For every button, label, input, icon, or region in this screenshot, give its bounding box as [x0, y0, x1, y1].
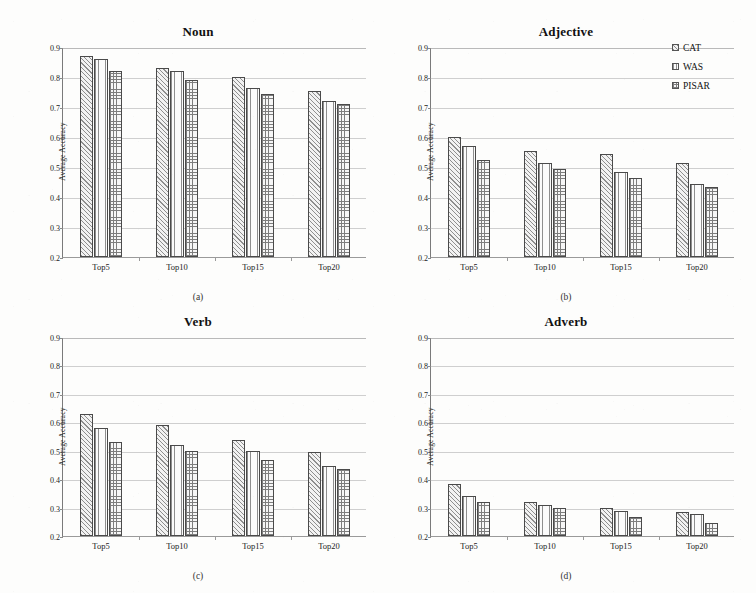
bar-cat-top20	[308, 452, 322, 536]
bar-was-top20	[322, 466, 336, 536]
bar-was-top20	[690, 514, 704, 536]
bar-was-top15	[614, 172, 628, 258]
x-axis-tick-mark	[507, 257, 508, 261]
bar-cat-top10	[524, 151, 538, 258]
bar-group: Top10	[139, 338, 215, 536]
bar-cat-top10	[156, 425, 170, 536]
chart-panel-noun: Noun0.90.80.70.60.50.40.30.2Top5Top10Top…	[18, 24, 378, 314]
bar-cat-top5	[448, 484, 462, 536]
y-axis-tick-label: 0.9	[418, 334, 428, 343]
bar-cat-top10	[524, 502, 538, 536]
y-axis-tick-label: 0.7	[418, 104, 428, 113]
y-axis-title: Average Accuracy	[426, 398, 435, 474]
bar-pisar-top15	[629, 517, 643, 536]
bar-group: Top15	[215, 48, 291, 257]
x-axis-tick-label: Top10	[507, 541, 583, 551]
y-axis-tick-label: 0.8	[418, 362, 428, 371]
bar-cat-top20	[676, 163, 690, 258]
y-axis-tick-label: 0.4	[50, 476, 60, 485]
y-axis-tick-label: 0.2	[50, 254, 60, 263]
bar-group: Top5	[431, 338, 507, 536]
y-axis-tick-label: 0.4	[418, 476, 428, 485]
legend-item-was: WAS	[672, 57, 710, 76]
panel-caption: (c)	[18, 571, 378, 581]
panel-caption: (a)	[18, 292, 378, 302]
bar-group: Top10	[507, 338, 583, 536]
bar-group: Top10	[507, 48, 583, 257]
bar-pisar-top5	[477, 502, 491, 536]
y-axis-tick-label: 0.9	[418, 44, 428, 53]
legend-item-cat: CAT	[672, 38, 710, 57]
bar-group: Top5	[431, 48, 507, 257]
bar-pisar-top15	[261, 94, 275, 258]
x-axis-tick-label: Top10	[139, 541, 215, 551]
x-axis-tick-label: Top20	[291, 262, 367, 272]
bar-cat-top10	[156, 68, 170, 257]
legend-swatch-icon	[672, 63, 679, 70]
x-axis-tick-mark	[291, 536, 292, 540]
bar-pisar-top20	[705, 187, 719, 258]
bar-cat-top5	[80, 414, 94, 536]
y-axis-tick-label: 0.4	[50, 194, 60, 203]
bar-was-top5	[94, 59, 108, 257]
y-axis-tick-label: 0.2	[50, 533, 60, 542]
y-axis-tick-label: 0.3	[50, 224, 60, 233]
x-axis-tick-mark	[507, 536, 508, 540]
y-axis-tick-label: 0.2	[418, 254, 428, 263]
bar-group: Top20	[659, 338, 735, 536]
y-axis-tick-label: 0.3	[418, 224, 428, 233]
bar-pisar-top10	[553, 508, 567, 536]
y-axis-tick-label: 0.8	[418, 74, 428, 83]
x-axis-tick-label: Top20	[659, 262, 735, 272]
bar-pisar-top20	[337, 104, 351, 257]
bar-pisar-top20	[705, 523, 719, 536]
bar-pisar-top15	[261, 460, 275, 536]
panel-caption: (d)	[386, 571, 746, 581]
y-axis-tick-label: 0.3	[50, 504, 60, 513]
plot-area: 0.90.80.70.60.50.40.30.2Top5Top10Top15To…	[62, 48, 366, 258]
bar-was-top10	[538, 505, 552, 536]
x-axis-tick-label: Top20	[291, 541, 367, 551]
bar-cat-top15	[232, 77, 246, 257]
plot-area: 0.90.80.70.60.50.40.30.2Top5Top10Top15To…	[430, 338, 734, 537]
x-axis-tick-label: Top15	[583, 541, 659, 551]
chart-panel-adverb: Adverb0.90.80.70.60.50.40.30.2Top5Top10T…	[386, 314, 746, 593]
x-axis-tick-label: Top5	[63, 262, 139, 272]
x-axis-tick-mark	[139, 536, 140, 540]
x-axis-tick-label: Top5	[431, 541, 507, 551]
x-axis-tick-mark	[215, 536, 216, 540]
bar-was-top20	[690, 184, 704, 258]
x-axis-tick-mark	[291, 257, 292, 261]
x-axis-tick-label: Top10	[507, 262, 583, 272]
x-axis-tick-label: Top15	[583, 262, 659, 272]
x-axis-tick-label: Top15	[215, 262, 291, 272]
x-axis-tick-mark	[139, 257, 140, 261]
bar-pisar-top10	[185, 80, 199, 257]
bar-cat-top20	[308, 91, 322, 258]
bar-pisar-top5	[109, 71, 123, 257]
y-axis-tick-label: 0.7	[50, 104, 60, 113]
x-axis-tick-mark	[583, 536, 584, 540]
bar-cat-top15	[600, 154, 614, 258]
x-axis-tick-label: Top5	[431, 262, 507, 272]
bar-was-top10	[170, 445, 184, 536]
bar-pisar-top10	[553, 169, 567, 258]
bar-group: Top15	[583, 338, 659, 536]
legend-item-label: PISAR	[683, 81, 710, 91]
legend-swatch-icon	[672, 44, 679, 51]
bar-was-top15	[614, 511, 628, 536]
panel-title: Noun	[18, 24, 378, 40]
bar-group: Top5	[63, 48, 139, 257]
panel-caption: (b)	[386, 292, 746, 302]
y-axis-tick-label: 0.8	[50, 362, 60, 371]
bar-was-top5	[462, 496, 476, 536]
x-axis-tick-mark	[215, 257, 216, 261]
bar-pisar-top5	[477, 160, 491, 258]
y-axis-tick-mark	[428, 537, 431, 538]
bar-pisar-top10	[185, 451, 199, 536]
x-axis-tick-mark	[659, 257, 660, 261]
legend-item-label: CAT	[683, 43, 701, 53]
y-axis-tick-label: 0.9	[50, 334, 60, 343]
panel-title: Verb	[18, 314, 378, 330]
bar-cat-top15	[232, 440, 246, 536]
